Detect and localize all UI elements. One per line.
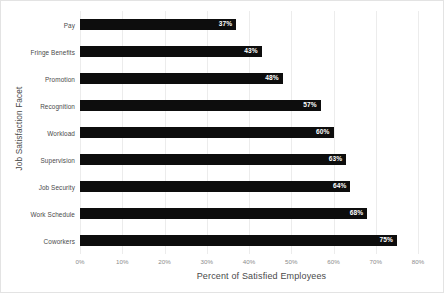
bar-row: Fringe Benefits43% <box>80 46 418 57</box>
x-tick-label: 80% <box>412 258 425 265</box>
category-label: Coworkers <box>44 237 75 244</box>
bar: 63% <box>80 154 346 165</box>
category-label: Pay <box>64 21 75 28</box>
x-tick-label: 50% <box>285 258 298 265</box>
category-label: Job Security <box>39 183 75 190</box>
bar-row: Supervision63% <box>80 154 418 165</box>
y-axis-title-text: Job Satisfaction Facet <box>16 87 25 171</box>
bar: 68% <box>80 208 367 219</box>
gridline <box>418 11 419 254</box>
bar-value-label: 68% <box>350 210 364 217</box>
x-tick-label: 60% <box>327 258 340 265</box>
bar-row: Workload60% <box>80 127 418 138</box>
bar-value-label: 37% <box>219 21 233 28</box>
bar-row: Job Security64% <box>80 181 418 192</box>
bar-row: Pay37% <box>80 19 418 30</box>
x-tick-label: 0% <box>75 258 84 265</box>
bar: 75% <box>80 235 397 246</box>
x-tick-label: 40% <box>243 258 256 265</box>
bar-chart: Job Satisfaction Facet Pay37%Fringe Bene… <box>0 0 444 293</box>
bar-value-label: 43% <box>244 48 258 55</box>
bar-row: Coworkers75% <box>80 235 418 246</box>
category-label: Work Schedule <box>30 210 75 217</box>
category-label: Supervision <box>41 156 76 163</box>
bar-value-label: 48% <box>265 75 279 82</box>
bar-row: Recognition57% <box>80 100 418 111</box>
bar: 43% <box>80 46 262 57</box>
bar-row: Promotion48% <box>80 73 418 84</box>
x-tick-label: 10% <box>116 258 129 265</box>
bar-value-label: 60% <box>316 129 330 136</box>
bar-row: Work Schedule68% <box>80 208 418 219</box>
category-label: Workload <box>47 129 75 136</box>
category-label: Promotion <box>45 75 75 82</box>
y-axis-title: Job Satisfaction Facet <box>12 1 28 256</box>
bar: 60% <box>80 127 334 138</box>
x-tick-label: 30% <box>200 258 213 265</box>
bar-value-label: 63% <box>329 156 343 163</box>
category-label: Recognition <box>40 102 75 109</box>
bar-value-label: 75% <box>379 237 393 244</box>
bar: 57% <box>80 100 321 111</box>
bar: 64% <box>80 181 350 192</box>
bar-value-label: 57% <box>303 102 317 109</box>
x-axis-title: Percent of Satisfied Employees <box>80 271 443 281</box>
x-tick-label: 70% <box>369 258 382 265</box>
bar: 37% <box>80 19 236 30</box>
bar: 48% <box>80 73 283 84</box>
plot-area: Pay37%Fringe Benefits43%Promotion48%Reco… <box>80 11 418 254</box>
x-tick-label: 20% <box>158 258 171 265</box>
category-label: Fringe Benefits <box>31 48 75 55</box>
bar-value-label: 64% <box>333 183 347 190</box>
